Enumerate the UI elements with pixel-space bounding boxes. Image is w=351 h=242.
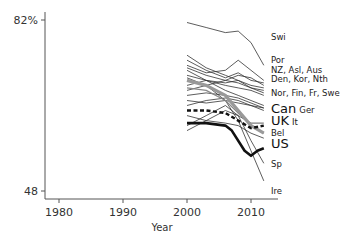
series-line-swi <box>187 23 264 66</box>
end-label-den: Den, Kor, Nth <box>271 74 328 84</box>
series-lines <box>187 23 264 181</box>
x-tick-2010: 2010 <box>237 206 265 219</box>
x-tick-2000: 2000 <box>173 206 201 219</box>
end-label-swi: Swi <box>271 32 286 42</box>
y-tick-82: 82% <box>14 14 38 27</box>
x-axis: 1980 1990 2000 2010 Year <box>45 199 278 233</box>
series-line-ire <box>187 78 264 181</box>
employment-rate-line-chart: 82% 48 1980 1990 2000 2010 Year SwiPorNZ… <box>0 0 351 242</box>
end-label-nor: Nor, Fin, Fr, Swe <box>271 88 340 98</box>
end-label-sp: Sp <box>271 159 282 169</box>
end-label-us: US <box>271 136 289 151</box>
x-axis-title: Year <box>150 222 173 233</box>
x-tick-1990: 1990 <box>109 206 137 219</box>
series-line-fr <box>187 101 264 109</box>
series-end-labels: SwiPorNZ, Asl, AusDen, Kor, NthNor, Fin,… <box>271 32 340 196</box>
end-label-por: Por <box>271 55 285 65</box>
y-axis: 82% 48 <box>14 12 45 199</box>
end-label-ire: Ire <box>271 186 282 196</box>
series-line-aus <box>187 75 264 88</box>
y-tick-48: 48 <box>24 185 38 198</box>
x-tick-1980: 1980 <box>45 206 73 219</box>
